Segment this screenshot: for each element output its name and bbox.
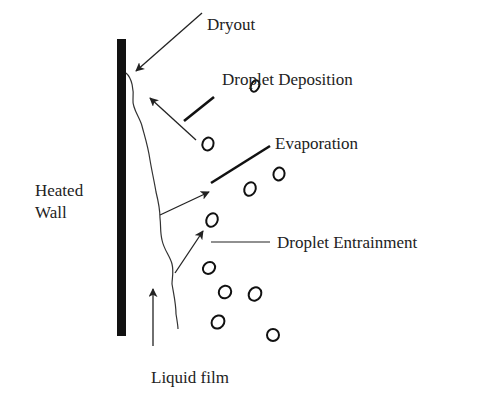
dryout-label: Dryout	[207, 16, 255, 33]
evaporation-arrow	[160, 192, 209, 215]
droplets	[200, 79, 286, 341]
heated-wall-label-line2: Wall	[35, 204, 67, 221]
droplet	[267, 329, 279, 341]
droplet	[242, 180, 258, 197]
evaporation-label: Evaporation	[275, 135, 358, 152]
droplet	[216, 283, 234, 301]
liquid-film-label: Liquid film	[151, 369, 229, 386]
droplet	[201, 136, 216, 152]
heated-wall-label-line1: Heated	[35, 182, 83, 199]
dryout-arrow	[136, 13, 202, 71]
entrainment-label: Droplet Entrainment	[277, 234, 417, 251]
droplet	[272, 166, 286, 181]
droplet	[200, 260, 217, 277]
entrainment-arrow	[175, 231, 203, 273]
droplet	[209, 313, 227, 331]
evaporation-leader	[211, 146, 270, 183]
heated-wall	[117, 39, 126, 336]
droplet	[204, 211, 220, 228]
deposition-arrow	[150, 98, 196, 140]
liquid-film-interface	[126, 73, 178, 329]
deposition-label: Droplet Deposition	[222, 71, 353, 88]
droplet	[246, 285, 264, 303]
deposition-leader	[184, 97, 214, 121]
